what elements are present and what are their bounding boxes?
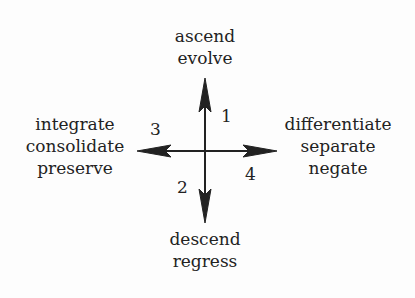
label-down-line-2: regress bbox=[155, 250, 255, 272]
label-left-line-2: consolidate bbox=[15, 135, 135, 157]
label-down: descend regress bbox=[155, 228, 255, 272]
label-left: integrate consolidate preserve bbox=[15, 113, 135, 179]
label-up-line-1: ascend bbox=[165, 25, 245, 47]
number-2: 2 bbox=[177, 177, 188, 197]
number-4: 4 bbox=[245, 164, 256, 184]
number-3: 3 bbox=[150, 119, 161, 139]
label-right: differentiate separate negate bbox=[278, 113, 398, 179]
number-1: 1 bbox=[221, 106, 232, 126]
label-right-line-2: separate bbox=[278, 135, 398, 157]
label-left-line-3: preserve bbox=[15, 157, 135, 179]
label-right-line-1: differentiate bbox=[278, 113, 398, 135]
label-left-line-1: integrate bbox=[15, 113, 135, 135]
label-up-line-2: evolve bbox=[165, 47, 245, 69]
label-down-line-1: descend bbox=[155, 228, 255, 250]
label-up: ascend evolve bbox=[165, 25, 245, 69]
direction-diagram: ascend evolve descend regress integrate … bbox=[0, 0, 415, 298]
label-right-line-3: negate bbox=[278, 157, 398, 179]
